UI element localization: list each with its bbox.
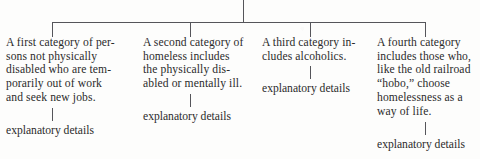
branch-3-detail-label: explanatory details bbox=[262, 82, 350, 96]
branch-2-line-2: homeless includes bbox=[143, 50, 267, 64]
branch-3-line-1: A third category in- bbox=[262, 36, 380, 50]
branch-4-text-block: A fourth category includes those who, li… bbox=[377, 36, 480, 118]
branch-4-line-5: homelessness as a bbox=[377, 91, 480, 105]
branch-1-line-2: sons not physically bbox=[6, 50, 138, 64]
branch-2-line-3: the physically dis- bbox=[143, 63, 267, 77]
branch-1-text-block: A first category of per- sons not physic… bbox=[6, 36, 138, 105]
branch-4-line-1: A fourth category bbox=[377, 36, 480, 50]
branch-3-line-2: cludes alcoholics. bbox=[262, 50, 380, 64]
branch-2-detail-label: explanatory details bbox=[143, 110, 231, 124]
branch-1-line-1: A first category of per- bbox=[6, 36, 138, 50]
branch-1-detail-label: explanatory details bbox=[6, 124, 94, 138]
branch-1-drop-line bbox=[52, 22, 53, 37]
branch-3-drop-line bbox=[310, 22, 311, 37]
branch-1-line-4: porarily out of work bbox=[6, 77, 138, 91]
branch-2-drop-line bbox=[190, 22, 191, 37]
branch-1-line-5: and seek new jobs. bbox=[6, 91, 138, 105]
branch-4-detail-connector bbox=[425, 122, 426, 135]
tree-diagram-canvas: A first category of per- sons not physic… bbox=[0, 0, 480, 159]
branch-3-text-block: A third category in- cludes alcoholics. bbox=[262, 36, 380, 63]
branch-4-line-4: “hobo,” choose bbox=[377, 77, 480, 91]
branch-2-detail-connector bbox=[190, 94, 191, 107]
branch-4-detail-label: explanatory details bbox=[377, 138, 465, 152]
root-stem-line bbox=[243, 0, 244, 23]
branch-4-line-2: includes those who, bbox=[377, 50, 480, 64]
branch-4-line-3: like the old railroad bbox=[377, 63, 480, 77]
branch-4-line-6: way of life. bbox=[377, 105, 480, 119]
branch-1-line-3: disabled who are tem- bbox=[6, 63, 138, 77]
branch-2-text-block: A second category of homeless includes t… bbox=[143, 36, 267, 91]
branch-horizontal-bar bbox=[52, 22, 426, 23]
branch-4-drop-line bbox=[425, 22, 426, 37]
branch-3-detail-connector bbox=[310, 66, 311, 79]
branch-2-line-1: A second category of bbox=[143, 36, 267, 50]
branch-1-detail-connector bbox=[52, 108, 53, 121]
branch-2-line-4: abled or mentally ill. bbox=[143, 77, 267, 91]
